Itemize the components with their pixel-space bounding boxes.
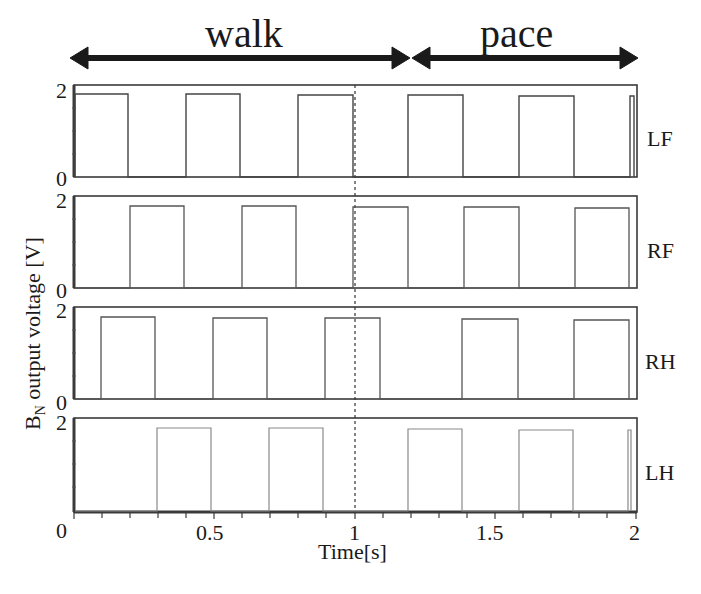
y-tick-2-LH: 2 xyxy=(56,412,67,434)
y-tick-2-RH: 2 xyxy=(56,300,67,322)
x-tick-0: 0 xyxy=(56,520,67,542)
x-tick-0.5: 0.5 xyxy=(196,522,224,544)
x-tick-2: 2 xyxy=(629,522,640,544)
y-tick-2-RF: 2 xyxy=(56,190,67,212)
panel-label-LH: LH xyxy=(645,462,674,484)
y-tick-2-LF: 2 xyxy=(56,80,67,102)
y-axis-label-B: B xyxy=(20,415,45,430)
walk-arrow xyxy=(70,47,410,69)
trace-RH xyxy=(75,317,629,399)
trace-RF xyxy=(75,206,629,288)
y-axis-label-rest: output voltage [V] xyxy=(20,237,45,405)
y-axis-label-N: N xyxy=(33,405,48,415)
y-tick-0-LF: 0 xyxy=(56,168,67,190)
panel-label-RH: RH xyxy=(645,351,676,373)
panel-label-RF: RF xyxy=(647,240,674,262)
y-axis-label: BN output voltage [V] xyxy=(22,237,48,430)
chart-canvas xyxy=(0,0,701,594)
x-axis-label: Time[s] xyxy=(318,541,387,563)
pace-arrow xyxy=(412,47,638,69)
x-tick-1.5: 1.5 xyxy=(476,522,504,544)
panel-label-LF: LF xyxy=(647,128,673,150)
trace-LH xyxy=(75,428,631,511)
